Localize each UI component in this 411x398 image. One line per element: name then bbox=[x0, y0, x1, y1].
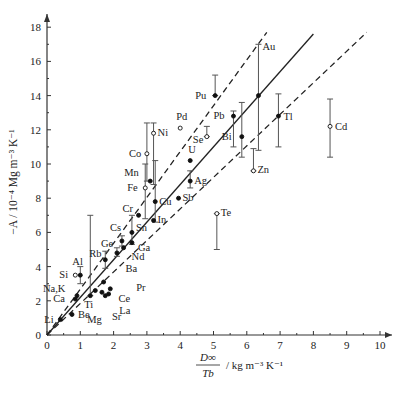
data-point-se bbox=[205, 135, 209, 139]
data-point-ti bbox=[88, 294, 92, 298]
point-label: Pr bbox=[136, 282, 146, 293]
point-label: Pu bbox=[195, 90, 207, 101]
point-label: Ti bbox=[84, 299, 93, 310]
point-label: Ni bbox=[158, 127, 169, 138]
data-point-al bbox=[78, 273, 82, 277]
data-point-ge bbox=[115, 251, 119, 255]
y-tick-label: 16 bbox=[30, 55, 42, 67]
y-tick-label: 12 bbox=[30, 124, 41, 136]
data-point-fe bbox=[143, 186, 147, 190]
point-label: Sn bbox=[136, 222, 148, 233]
x-tick-label: 10 bbox=[375, 339, 387, 351]
data-point-cd bbox=[328, 124, 332, 128]
data-point-au bbox=[256, 94, 260, 98]
y-tick-label: 10 bbox=[30, 158, 42, 170]
data-point-u bbox=[188, 159, 192, 163]
data-point-te bbox=[215, 212, 219, 216]
x-axis-label-unit: / kg m⁻³ K⁻¹ bbox=[226, 359, 283, 371]
point-label: Si bbox=[59, 269, 68, 280]
data-point-in bbox=[152, 218, 156, 222]
point-label: Rb bbox=[89, 248, 101, 259]
x-tick-label: 4 bbox=[177, 339, 183, 351]
data-point-ce bbox=[107, 292, 111, 296]
x-tick-label: 3 bbox=[144, 339, 150, 351]
data-point-co bbox=[145, 152, 149, 156]
data-point-rb bbox=[103, 258, 107, 262]
scatter-chart: 012345678910024681012141618 LiBeCaNa,KSi… bbox=[0, 0, 411, 398]
x-axis-label-denominator: Tb bbox=[202, 367, 214, 379]
data-point-sr bbox=[100, 290, 104, 294]
y-axis-arrow-icon bbox=[44, 14, 50, 22]
data-point-si bbox=[73, 273, 77, 277]
data-point-mg bbox=[93, 289, 97, 293]
x-tick-label: 7 bbox=[277, 339, 283, 351]
point-label: Ga bbox=[138, 242, 151, 253]
x-tick-label: 8 bbox=[311, 339, 317, 351]
point-label: In bbox=[158, 214, 167, 225]
data-point-bi bbox=[240, 135, 244, 139]
data-point-ba bbox=[102, 280, 106, 284]
point-label: Cs bbox=[110, 222, 121, 233]
data-point-sb bbox=[177, 196, 181, 200]
y-tick-label: 6 bbox=[36, 226, 42, 238]
point-label: Cr bbox=[123, 203, 134, 214]
data-points: LiBeCaNa,KSiAlTiMgBaSrLaCePrRbGeNdCsGaSn… bbox=[43, 41, 348, 325]
data-point-nd bbox=[122, 246, 126, 250]
point-label: Ce bbox=[119, 293, 131, 304]
y-tick-label: 18 bbox=[30, 21, 42, 33]
point-label: U bbox=[188, 144, 196, 155]
x-axis-arrow-icon bbox=[385, 332, 392, 338]
point-label: Au bbox=[262, 41, 276, 52]
x-tick-label: 2 bbox=[111, 339, 117, 351]
point-label: Co bbox=[129, 148, 141, 159]
point-label: Ge bbox=[101, 238, 114, 249]
point-label: Bi bbox=[222, 131, 232, 142]
point-label: Mg bbox=[87, 314, 102, 325]
data-point-pu bbox=[213, 94, 217, 98]
point-label: Pb bbox=[213, 110, 224, 121]
data-point-cr bbox=[137, 213, 141, 217]
point-label: Li bbox=[44, 314, 53, 325]
x-tick-label: 9 bbox=[344, 339, 350, 351]
point-label: Ca bbox=[53, 293, 65, 304]
point-label: Fe bbox=[127, 182, 138, 193]
data-point-sn bbox=[130, 230, 134, 234]
y-tick-label: 2 bbox=[36, 295, 42, 307]
y-tick-label: 0 bbox=[36, 329, 42, 341]
x-tick-label: 0 bbox=[44, 339, 50, 351]
data-point-tl bbox=[276, 114, 280, 118]
y-tick-label: 4 bbox=[36, 261, 42, 273]
point-label: Cu bbox=[159, 196, 172, 207]
data-point-li bbox=[58, 318, 62, 322]
data-point-mn bbox=[148, 179, 152, 183]
data-point-ag bbox=[188, 179, 192, 183]
x-tick-label: 5 bbox=[211, 339, 217, 351]
point-label: Tl bbox=[283, 111, 292, 122]
y-axis-label: −A / 10⁻⁴ Mg m⁻³ K⁻¹ bbox=[7, 129, 20, 235]
data-point-ni bbox=[152, 131, 156, 135]
data-point-be bbox=[70, 312, 74, 316]
point-label: Se bbox=[193, 134, 204, 145]
point-label: Sb bbox=[183, 192, 194, 203]
x-tick-label: 6 bbox=[244, 339, 250, 351]
point-label: Zn bbox=[257, 164, 269, 175]
y-tick-label: 8 bbox=[36, 192, 42, 204]
data-point-pd bbox=[178, 126, 182, 130]
upper-bound-line bbox=[47, 32, 267, 335]
x-tick-label: 1 bbox=[78, 339, 84, 351]
point-label: Ba bbox=[126, 263, 138, 274]
point-label: Te bbox=[221, 207, 232, 218]
point-label: Cd bbox=[335, 121, 348, 132]
data-point-zn bbox=[251, 169, 255, 173]
point-label: Al bbox=[72, 256, 83, 267]
y-tick-label: 14 bbox=[30, 90, 42, 102]
x-axis-label-numerator: D∞ bbox=[199, 351, 216, 363]
data-point-cs bbox=[120, 239, 124, 243]
point-label: Ag bbox=[194, 175, 208, 186]
point-label: La bbox=[119, 305, 130, 316]
data-point-pb bbox=[231, 114, 235, 118]
data-point-pr bbox=[108, 287, 112, 291]
data-point-ga bbox=[130, 241, 134, 245]
point-label: Na,K bbox=[43, 283, 66, 294]
data-point-cu bbox=[153, 200, 157, 204]
